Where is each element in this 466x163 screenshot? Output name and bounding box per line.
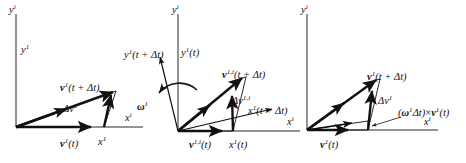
- panel2-omega-label: ω1: [137, 102, 148, 113]
- panel2-x-axis-outer-label: xi: [287, 117, 294, 128]
- panel3-y-axis-outer-label: yi: [301, 5, 308, 16]
- panel3-v-initial-label: v1(t): [320, 140, 338, 151]
- panel1-x-axis-outer-label: xi: [125, 113, 132, 124]
- panel2-v-final-label: v1,i(t + Δt): [222, 70, 265, 81]
- panel2-y-axis-rotated-label: y1(t + Δt): [124, 50, 164, 61]
- panel2-x-axis-inner-label: x1(t): [229, 140, 247, 151]
- panel2-y-axis-inner-label: y1(t): [181, 48, 199, 59]
- panel1-delta-v-label: Δv1: [63, 104, 77, 115]
- panel-1-axes: [16, 14, 143, 127]
- panel1-y-axis-inner-label: y1: [21, 45, 29, 56]
- panel3-x-axis-outer-label: xi: [424, 117, 431, 128]
- panel2-x-axis-rotated-label: x1(t + Δt): [248, 106, 288, 117]
- panel3-v-final-label: v1(t + Δt): [367, 72, 407, 83]
- panel1-v-final-label: v1(t + Δt): [60, 83, 100, 94]
- panel2-y-axis-outer-label: yi: [172, 5, 179, 16]
- panel2-v-initial-label: v1,i(t): [189, 140, 211, 151]
- panel3-delta-v-label: Δv1: [378, 96, 392, 107]
- panel3-cross-term-label: (ω1Δt)×v1(t): [398, 108, 449, 119]
- panel2-delta-v-label: Δv1,i: [232, 96, 250, 107]
- panel1-x-axis-inner-label: x1: [98, 137, 106, 148]
- panel1-y-axis-outer-label: yi: [9, 5, 16, 16]
- panel1-v-initial-label: v1(t): [60, 139, 78, 150]
- vector-diagram-figure: yi y1 xi x1 v1(t) v1(t + Δt) Δv1 yi y1(t…: [0, 0, 466, 163]
